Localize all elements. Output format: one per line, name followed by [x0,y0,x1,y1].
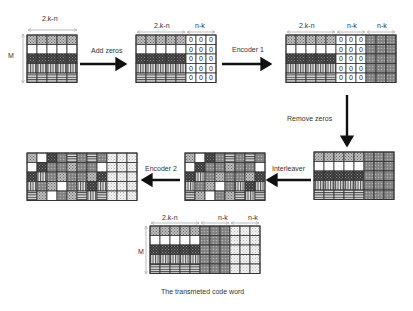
parity-cell [210,264,220,274]
parity-cell [376,54,386,64]
parity-cell [250,245,260,255]
zero-digit: 0 [339,55,343,62]
data-cell [146,45,156,55]
interleaved-cell [225,172,235,182]
zero-digit: 0 [199,74,203,81]
data-cell [334,162,344,172]
data-cell [67,73,77,83]
label-rows-1: M [8,52,14,59]
interleaved-cell [57,191,67,201]
label-remove-zeros: Remove zeros [287,115,333,122]
interleaved-cell [235,163,245,173]
zero-digit: 0 [209,46,213,53]
data-cell [27,54,37,64]
zero-digit: 0 [339,36,343,43]
parity-cell [240,255,250,265]
data-cell [176,35,186,45]
interleaved-cell [47,153,57,163]
data-cell [314,152,324,162]
label-width-nk-7a: n-k [218,214,228,221]
data-cell [156,73,166,83]
zero-digit: 0 [339,65,343,72]
parity-cell [220,226,230,236]
parity-cell [376,35,386,45]
data-cell [344,171,354,181]
data-cell [176,64,186,74]
interleaved-cell [245,153,255,163]
interleaved-cell [67,182,77,192]
data-cell [176,54,186,64]
data-cell [180,255,190,265]
zero-digit: 0 [199,36,203,43]
data-cell [354,181,364,191]
data-cell [27,64,37,74]
data-cell [326,35,336,45]
data-cell [354,171,364,181]
interleaved-cell [255,172,265,182]
parity-cell [386,45,396,55]
data-cell [334,171,344,181]
interleaved-cell [77,191,87,201]
parity-cell [127,191,137,201]
interleaved-cell [67,191,77,201]
parity-cell [127,182,137,192]
parity-cell [210,245,220,255]
parity-cell [200,236,210,246]
grid-interleaved [185,153,265,201]
parity-cell [117,182,127,192]
interleaved-cell [245,191,255,201]
zero-digit: 0 [339,46,343,53]
interleaved-cell [27,172,37,182]
data-cell [316,35,326,45]
data-cell [67,45,77,55]
interleaved-cell [87,153,97,163]
parity-cell [376,64,386,74]
interleaved-cell [245,182,255,192]
parity-cell [200,264,210,274]
data-cell [57,54,67,64]
parity-cell [384,162,394,172]
data-cell [67,54,77,64]
data-cell [170,226,180,236]
data-cell [334,190,344,200]
data-cell [156,45,166,55]
zero-digit: 0 [209,55,213,62]
grid-zeros-removed [314,152,394,200]
parity-cell [210,236,220,246]
interleaved-cell [27,182,37,192]
data-cell [166,45,176,55]
data-cell [170,245,180,255]
parity-cell [250,264,260,274]
parity-cell [230,236,240,246]
parity-cell [107,182,117,192]
zero-digit: 0 [359,55,363,62]
interleaved-cell [185,182,195,192]
data-cell [316,73,326,83]
label-encoder2: Encoder 2 [145,165,177,172]
data-cell [27,73,37,83]
parity-cell [364,152,374,162]
parity-cell [384,152,394,162]
data-cell [47,45,57,55]
label-width-2kn-1: 2.k-n [42,15,58,22]
interleaved-cell [87,163,97,173]
interleaved-cell [57,153,67,163]
zero-digit: 0 [209,74,213,81]
parity-cell [240,264,250,274]
interleaved-cell [97,182,107,192]
interleaved-cell [235,153,245,163]
data-cell [150,255,160,265]
data-cell [37,45,47,55]
zero-digit: 0 [189,65,193,72]
data-cell [326,73,336,83]
interleaved-cell [37,182,47,192]
data-cell [190,255,200,265]
data-cell [306,64,316,74]
parity-cell [364,181,374,191]
label-rows-7: M [138,248,144,255]
parity-cell [127,163,137,173]
interleaved-cell [77,153,87,163]
grid-with-zeros: 000000000000000 [136,35,216,83]
interleaved-cell [27,153,37,163]
zero-digit: 0 [199,46,203,53]
